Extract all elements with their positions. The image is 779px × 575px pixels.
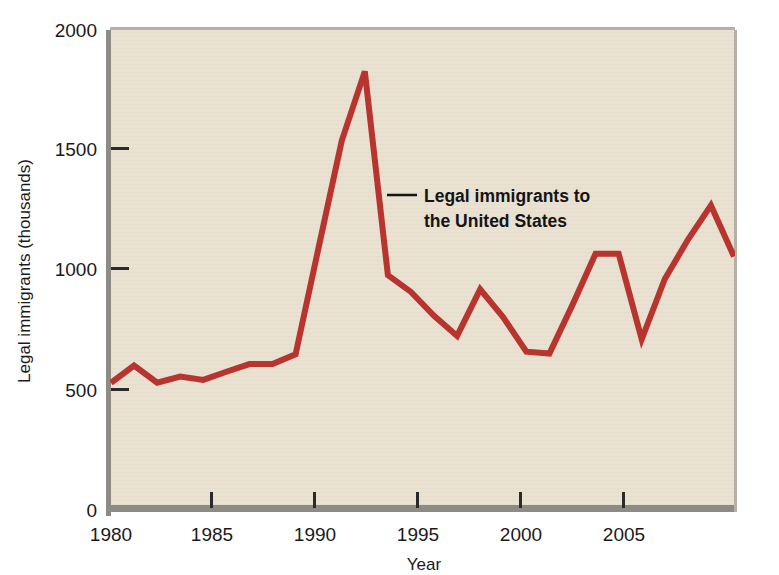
plot-right-edge [734, 30, 737, 512]
annotation-text-line-1: Legal immigrants to [424, 186, 590, 206]
line-chart: 2000 1500 1000 500 0 1980 1985 1990 1995… [0, 0, 779, 575]
y-tick-label-2000: 2000 [55, 20, 97, 41]
x-tick-1985 [210, 492, 213, 508]
x-tick-1990 [313, 492, 316, 508]
x-tick-2000 [519, 492, 522, 508]
x-tick-label-1990: 1990 [294, 524, 336, 545]
x-tick-label-2000: 2000 [500, 524, 542, 545]
x-axis-line [106, 505, 737, 512]
x-tick-label-1985: 1985 [191, 524, 233, 545]
chart-figure: 2000 1500 1000 500 0 1980 1985 1990 1995… [0, 0, 779, 575]
y-tick-label-0: 0 [86, 500, 97, 521]
x-tick-1995 [416, 492, 419, 508]
x-tick-label-2005: 2005 [603, 524, 645, 545]
plot-background [110, 30, 735, 512]
annotation-text-line-2: the United States [424, 211, 567, 231]
y-tick-label-500: 500 [65, 380, 97, 401]
y-tick-label-1000: 1000 [55, 259, 97, 280]
x-axis-title: Year [407, 555, 442, 574]
x-tick-label-1995: 1995 [397, 524, 439, 545]
y-tick-1000 [111, 267, 129, 270]
y-axis-line [106, 30, 111, 516]
plot-area [106, 27, 737, 516]
y-tick-label-1500: 1500 [55, 139, 97, 160]
plot-top-edge [110, 27, 735, 30]
y-axis-title: Legal immigrants (thousands) [15, 159, 34, 383]
y-tick-500 [111, 388, 129, 391]
x-tick-label-1980: 1980 [90, 524, 132, 545]
y-tick-1500 [111, 147, 129, 150]
x-tick-2005 [622, 492, 625, 508]
